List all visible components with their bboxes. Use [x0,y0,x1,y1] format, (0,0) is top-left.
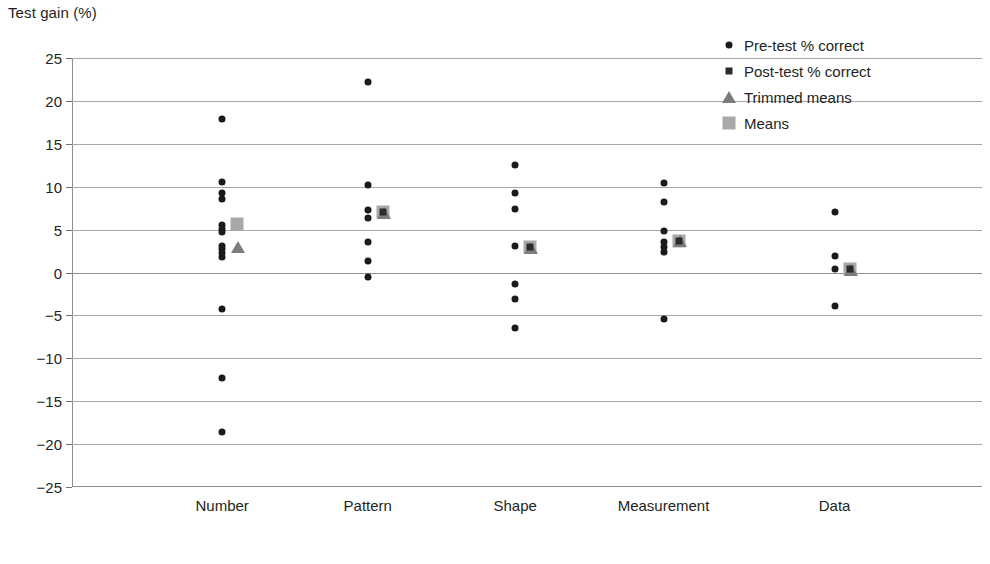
data-point-dot [365,258,371,264]
means-marker-icon [714,110,744,136]
data-point-square [527,243,534,250]
legend-item: Pre-test % correct [714,32,984,58]
post-test-marker-icon [714,58,744,84]
data-point-dot [219,306,225,312]
data-point-dot [219,375,225,381]
data-point-dot [661,180,667,186]
x-axis-label-data: Data [819,497,851,514]
legend-item: Means [714,110,984,136]
y-tick-label: 25 [45,50,62,67]
data-point-dot [219,179,225,185]
data-point-dot [365,274,371,280]
x-axis-label-measurement: Measurement [618,497,710,514]
y-tick-label: 20 [45,92,62,109]
x-axis-label-pattern: Pattern [344,497,392,514]
data-point-dot [365,215,371,221]
gridline [72,358,982,359]
data-point-square [846,266,853,273]
data-point-dot [832,253,838,259]
data-point-dot [661,249,667,255]
gridline [72,401,982,402]
data-point-dot [661,228,667,234]
data-point-dot [512,243,518,249]
data-point-dot [661,316,667,322]
trimmed-means-marker-icon [714,84,744,110]
pre-test-marker-icon [714,32,744,58]
legend-label: Pre-test % correct [744,37,864,54]
data-point-dot [365,207,371,213]
legend: Pre-test % correct Post-test % correct T… [714,32,984,136]
data-point-square [379,208,386,215]
y-tick-label: −5 [45,307,62,324]
y-tick-mark [66,487,72,488]
x-axis-label-shape: Shape [493,497,536,514]
gridline [72,230,982,231]
data-point-dot [832,303,838,309]
data-point-dot [219,116,225,122]
gridline [72,315,982,316]
y-tick-mark [66,58,72,59]
gridline [72,444,982,445]
legend-item: Post-test % correct [714,58,984,84]
y-tick-mark [66,401,72,402]
data-point-dot [512,281,518,287]
y-tick-mark [66,358,72,359]
y-tick-label: 0 [54,264,62,281]
y-tick-label: −20 [37,436,62,453]
data-point-dot [512,325,518,331]
data-point-dot [219,254,225,260]
data-point-dot [832,209,838,215]
data-point-dot [219,196,225,202]
data-point-dot [365,79,371,85]
legend-label: Trimmed means [744,89,852,106]
data-point-dot [512,206,518,212]
data-point-dot [219,229,225,235]
y-tick-mark [66,444,72,445]
data-point-dot [512,162,518,168]
y-tick-mark [66,101,72,102]
y-tick-label: 10 [45,178,62,195]
gridline [72,187,982,188]
y-tick-mark [66,230,72,231]
y-tick-label: 15 [45,135,62,152]
x-axis-label-number: Number [195,497,248,514]
data-point-dot [832,266,838,272]
data-point-dot [512,190,518,196]
y-tick-mark [66,315,72,316]
y-tick-label: −10 [37,350,62,367]
x-axis-line [72,486,982,487]
y-tick-label: −25 [37,479,62,496]
y-tick-label: 5 [54,221,62,238]
data-point-mean-square [231,218,244,231]
data-point-dot [219,429,225,435]
legend-label: Means [744,115,789,132]
y-tick-mark [66,273,72,274]
y-tick-mark [66,187,72,188]
y-axis-title: Test gain (%) [8,4,97,21]
gridline [72,144,982,145]
data-point-dot [365,239,371,245]
scatter-chart: Test gain (%) 2520151050−5−10−15−20−25 N… [0,0,990,564]
legend-label: Post-test % correct [744,63,871,80]
data-point-dot [512,296,518,302]
data-point-dot [661,199,667,205]
legend-item: Trimmed means [714,84,984,110]
y-tick-mark [66,144,72,145]
data-point-triangle [231,241,245,253]
data-point-square [675,237,682,244]
data-point-dot [365,182,371,188]
y-tick-label: −15 [37,393,62,410]
